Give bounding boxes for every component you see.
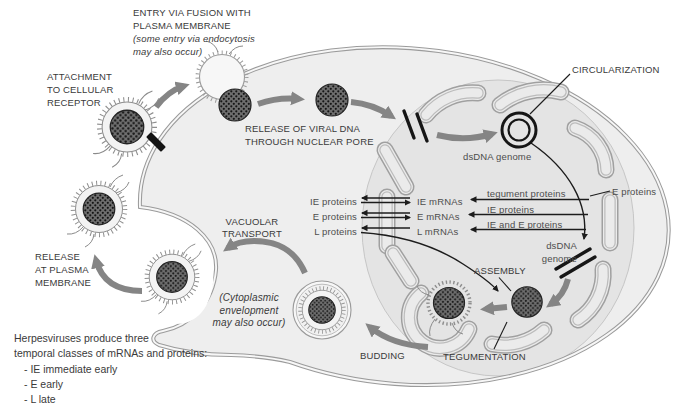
assembly-to-tegumentation-arrow <box>486 307 507 309</box>
circularization-label: CIRCULARIZATION <box>572 63 660 76</box>
dsdna-genome-linear-label: dsDNA genome <box>517 240 577 265</box>
herpesvirus-lifecycle-diagram: ENTRY VIA FUSION WITH PLASMA MEMBRANE (s… <box>0 0 681 408</box>
dsdna-linear-line1: dsDNA <box>517 240 577 253</box>
e-mrnas-label: E mRNAs <box>417 210 460 223</box>
release-line3: MEMBRANE <box>35 276 91 289</box>
dsdna-genome-circular-label: dsDNA genome <box>463 150 531 163</box>
entry-note-line1: (some entry via endocytosis <box>133 32 255 45</box>
release-membrane-label: RELEASE AT PLASMA MEMBRANE <box>35 250 91 289</box>
legend-intro: Herpesviruses produce three temporal cla… <box>14 331 207 361</box>
release-pore-label: RELEASE OF VIRAL DNA THROUGH NUCLEAR POR… <box>245 123 374 148</box>
e-proteins-source-label: E proteins <box>612 185 656 198</box>
ie-and-e-proteins-label: IE and E proteins <box>487 218 562 231</box>
vacuolar-line1: VACUOLAR <box>202 216 302 228</box>
entry-label: ENTRY VIA FUSION WITH PLASMA MEMBRANE (s… <box>133 6 255 58</box>
assembly-capsid-icon <box>512 287 542 317</box>
tegumentation-label: TEGUMENTATION <box>443 350 526 363</box>
ie-mrnas-label: IE mRNAs <box>417 195 463 208</box>
cytoplasmic-envelopment-note: (Cytoplasmic envelopment may also occur) <box>193 292 305 330</box>
legend-item-e: - E early <box>24 377 63 392</box>
cyto-note-line3: may also occur) <box>193 317 305 330</box>
attachment-line1: ATTACHMENT <box>47 70 113 83</box>
dsdna-linear-line2: genome <box>517 253 577 266</box>
release-pore-line2: THROUGH NUCLEAR PORE <box>245 136 374 149</box>
tegument-proteins-label: tegument proteins <box>487 187 566 200</box>
legend-line1: Herpesviruses produce three <box>14 331 207 346</box>
attachment-arrow <box>156 86 184 107</box>
capsid-icon-2 <box>316 84 348 116</box>
entry-line2: PLASMA MEMBRANE <box>133 19 255 32</box>
attachment-label: ATTACHMENT TO CELLULAR RECEPTOR <box>47 70 113 109</box>
legend-line2: temporal classes of mRNAs and proteins: <box>14 346 207 361</box>
attachment-line3: RECEPTOR <box>47 96 113 109</box>
release-line1: RELEASE <box>35 250 91 263</box>
release-pore-line1: RELEASE OF VIRAL DNA <box>245 123 374 136</box>
entry-line1: ENTRY VIA FUSION WITH <box>133 6 255 19</box>
ie-proteins-label: IE proteins <box>305 195 357 208</box>
l-proteins-label: L proteins <box>305 225 357 238</box>
capsid-icon-1 <box>219 89 251 121</box>
vacuolar-transport-label: VACUOLAR TRANSPORT <box>202 216 302 239</box>
attachment-line2: TO CELLULAR <box>47 83 113 96</box>
ie-proteins-regulator-label: IE proteins <box>487 203 534 216</box>
l-mrnas-label: L mRNAs <box>417 225 458 238</box>
e-proteins-label: E proteins <box>305 210 357 223</box>
budding-label: BUDDING <box>360 349 405 362</box>
released-virion-icon <box>67 175 129 247</box>
legend-item-ie: - IE immediate early <box>24 362 117 377</box>
vacuolar-line2: TRANSPORT <box>202 228 302 240</box>
entry-note-line2: may also occur) <box>133 45 255 58</box>
cyto-note-line1: (Cytoplasmic <box>193 292 305 305</box>
legend-item-l: - L late <box>24 392 56 407</box>
assembly-label: ASSEMBLY <box>474 264 526 277</box>
release-line2: AT PLASMA <box>35 263 91 276</box>
cyto-note-line2: envelopment <box>193 305 305 318</box>
release-arrow <box>96 260 142 291</box>
